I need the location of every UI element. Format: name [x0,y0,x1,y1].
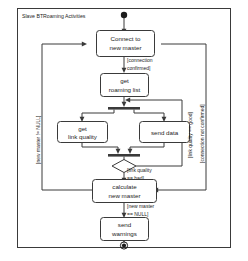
activity-connect-to-new-master: Connect to new master [97,31,155,57]
activity-label-line2: roaming list [109,86,141,93]
flow-fork-to-link-quality [82,110,114,119]
arrowhead-new-master-not-null [82,42,87,47]
activity-label-line1: get [120,77,129,84]
guard-new-master-null-line1: [new master [127,203,155,209]
activity-label-line1: calculate [112,183,137,190]
arrowhead-link-quality-good-loop [125,98,130,103]
uml-activity-diagram: Slave BTRoaming Activities [0,0,248,261]
guard-connection-confirmed-line2: confirmed] [127,65,151,71]
initial-node [121,12,127,18]
flow-new-master-not-null [42,44,92,190]
guard-connection-confirmed-line1: [connection [127,57,153,63]
activity-label-line2: new master [109,192,141,199]
guard-link-quality-good: [link quality == good] [187,112,193,158]
activity-calculate-new-master: calculate new master [93,180,157,203]
flow-fork-to-send-data [134,110,164,119]
flow-send-data-to-join [130,142,164,152]
activity-label-line1: send [118,221,132,228]
activity-label-line1: get [78,125,87,132]
activity-label-line2: warnings [111,230,137,237]
activity-diagram-canvas: Slave BTRoaming Activities [0,0,248,261]
activity-send-warnings: send warnings [101,218,149,241]
guard-connection-not-confirmed: [connection not confirmed] [199,104,205,163]
guard-link-quality-bad-line1: [link quality [127,167,152,173]
guard-new-master-null-line2: == NULL] [127,211,149,217]
activity-get-link-quality: get link quality [58,122,108,143]
activity-send-data: send data [140,122,190,143]
activity-label-line2: link quality [68,133,98,140]
final-node-center [122,243,126,247]
activity-label-line1: send data [151,129,179,136]
arrowhead-link-quality-to-join [116,149,121,154]
activity-label-line1: Connect to [111,35,141,42]
guard-new-master-not-null: [new master != NULL] [35,115,41,164]
activity-get-roaming-list: get roaming list [101,74,149,97]
arrowhead-connect-to-roaming [122,68,127,73]
arrowhead-send-data-to-join [128,149,133,154]
frame-title: Slave BTRoaming Activities [22,13,86,19]
flow-link-quality-to-join [82,142,118,152]
fork-bar [108,107,140,110]
activity-label-line2: new master [110,44,142,51]
join-bar [108,154,140,157]
arrowhead-roaming-to-fork [122,102,127,107]
